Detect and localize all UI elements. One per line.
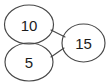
node-15-label: 15 [75, 35, 92, 52]
number-bond-diagram: 10 5 15 [0, 0, 111, 83]
node-15[interactable]: 15 [62, 24, 105, 62]
node-10-label: 10 [21, 17, 38, 34]
node-10[interactable]: 10 [5, 5, 54, 44]
edge-group [51, 30, 65, 57]
node-5[interactable]: 5 [5, 43, 53, 81]
node-5-label: 5 [25, 54, 33, 71]
diagram-canvas: 10 5 15 [0, 0, 111, 83]
edge-node5-to-node15 [51, 48, 64, 57]
